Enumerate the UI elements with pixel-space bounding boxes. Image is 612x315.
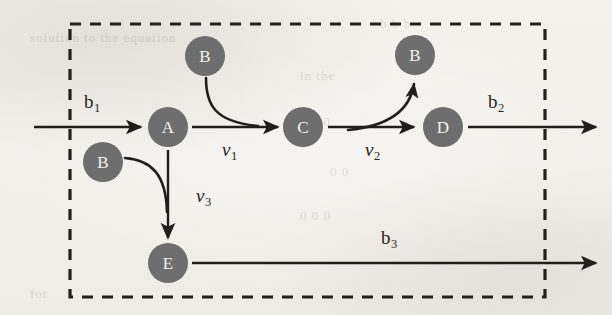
node-B-top-right[interactable]: B <box>395 35 435 75</box>
rate-subscript: 2 <box>373 149 380 163</box>
rate-label-v3: ν3 <box>196 186 211 208</box>
node-D[interactable]: D <box>423 107 463 147</box>
flux-symbol: b <box>381 227 391 248</box>
flux-label-b3: b3 <box>381 228 397 250</box>
flux-subscript: 1 <box>94 101 101 115</box>
flux-symbol: b <box>488 91 498 112</box>
node-label: C <box>297 118 308 137</box>
node-label: B <box>409 46 420 65</box>
rate-subscript: 1 <box>230 149 237 163</box>
flux-label-b2: b2 <box>488 92 504 114</box>
rate-subscript: 3 <box>204 195 211 209</box>
diagram-vector-layer: A C D E B B B <box>0 0 612 315</box>
node-label: B <box>199 47 210 66</box>
curve-b3-cofactor-into-v3 <box>125 158 167 212</box>
curve-v2-to-b2-product <box>348 84 414 130</box>
flux-subscript: 2 <box>498 101 505 115</box>
flux-symbol: b <box>84 91 94 112</box>
node-label: E <box>163 254 173 273</box>
flux-label-b1: b1 <box>84 92 100 114</box>
node-label: D <box>437 118 449 137</box>
node-E[interactable]: E <box>148 243 188 283</box>
node-C[interactable]: C <box>283 107 323 147</box>
node-B-lower-left[interactable]: B <box>83 142 123 182</box>
node-label: A <box>162 118 175 137</box>
node-label: B <box>97 153 108 172</box>
node-B-top-left[interactable]: B <box>185 36 225 76</box>
flux-subscript: 3 <box>391 237 398 251</box>
node-A[interactable]: A <box>148 107 188 147</box>
rate-label-v2: ν2 <box>365 140 380 162</box>
rate-label-v1: ν1 <box>222 140 237 162</box>
diagram-canvas: solution to the equation b b b in the 0 … <box>0 0 612 315</box>
curve-b1-cofactor-into-v1 <box>206 78 258 126</box>
